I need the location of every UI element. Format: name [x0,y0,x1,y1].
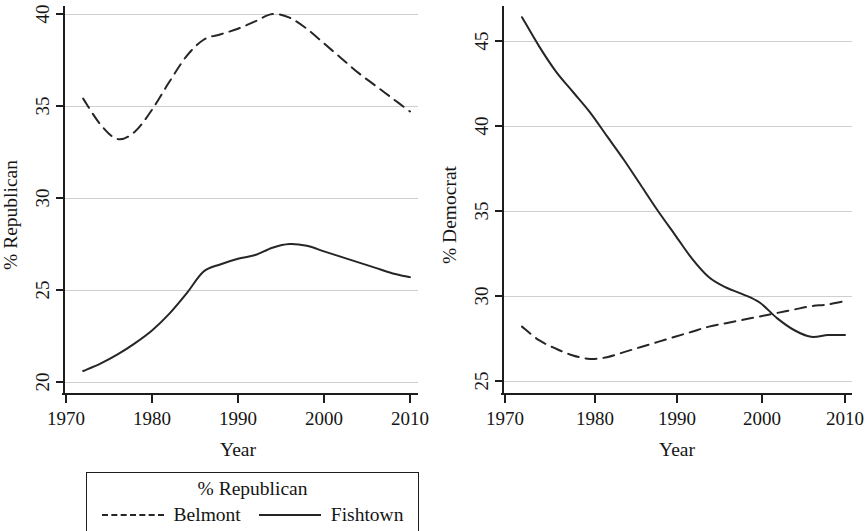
democrat-xtick-2000: 2000 [743,408,781,429]
republican-x-ticks [66,394,410,403]
democrat-y-ticks [495,41,503,381]
republican-y-axis-label: % Republican [0,160,21,270]
democrat-xtick-1990: 1990 [658,408,696,429]
democrat-plot-svg: 45 40 35 30 25 % Democrat 1970 1980 1990… [434,0,868,470]
democrat-series-belmont [522,301,845,359]
democrat-xtick-2010: 2010 [826,408,864,429]
republican-series-fishtown [83,244,410,371]
democrat-ytick-30: 30 [471,287,492,306]
democrat-ytick-35: 35 [471,202,492,221]
democrat-x-ticks [505,394,845,403]
republican-ytick-40: 40 [32,5,53,24]
republican-ytick-30: 30 [32,189,53,208]
chart-panel-democrat: 45 40 35 30 25 % Democrat 1970 1980 1990… [434,0,868,531]
republican-y-ticks [56,14,64,382]
legend-republican-title: % Republican [87,473,418,502]
democrat-ytick-25: 25 [471,372,492,391]
democrat-y-axis-label: % Democrat [439,165,460,264]
legend-item-belmont: Belmont [102,502,241,528]
republican-x-axis-label: Year [220,439,256,460]
republican-xtick-1990: 1990 [219,408,257,429]
democrat-xtick-1970: 1970 [486,408,524,429]
republican-xtick-2010: 2010 [391,408,429,429]
democrat-xtick-1980: 1980 [576,408,614,429]
democrat-ytick-45: 45 [471,32,492,51]
dashed-line-icon [102,514,164,516]
republican-ytick-20: 20 [32,373,53,392]
republican-ytick-35: 35 [32,97,53,116]
democrat-gridlines [503,41,852,381]
legend-label-fishtown: Fishtown [331,502,404,528]
republican-ytick-25: 25 [32,281,53,300]
figure-root: 40 35 30 25 20 % Republican 1970 1980 19… [0,0,868,531]
republican-gridlines [64,14,418,382]
legend-item-fishtown: Fishtown [259,502,404,528]
solid-line-icon [259,514,321,516]
democrat-x-axis-label: Year [659,439,695,460]
legend-republican-entries: Belmont Fishtown [87,502,418,528]
democrat-series-fishtown [522,17,845,337]
republican-xtick-2000: 2000 [305,408,343,429]
republican-plot-svg: 40 35 30 25 20 % Republican 1970 1980 19… [0,0,434,470]
chart-panel-republican: 40 35 30 25 20 % Republican 1970 1980 19… [0,0,434,531]
legend-republican: % Republican Belmont Fishtown [86,472,419,531]
republican-xtick-1970: 1970 [47,408,85,429]
republican-series-belmont [83,14,410,139]
legend-label-belmont: Belmont [174,502,241,528]
democrat-ytick-40: 40 [471,117,492,136]
republican-xtick-1980: 1980 [133,408,171,429]
